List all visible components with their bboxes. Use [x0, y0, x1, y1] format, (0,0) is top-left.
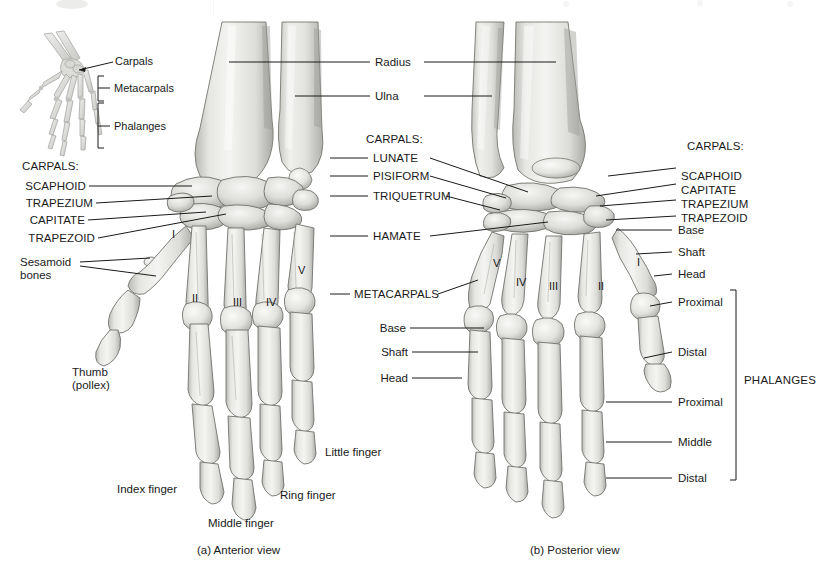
anterior-carpals-heading: CARPALS: [22, 160, 79, 173]
posterior-metacarpal-shaft-center: Shaft [330, 346, 408, 359]
center-carpal-triquetrum: TRIQUETRUM [373, 190, 451, 203]
label-thumb-line2: (pollex) [72, 379, 110, 392]
anterior-metacarpal-numeral-5: V [298, 264, 305, 277]
posterior-metacarpal-numeral-4: IV [516, 276, 526, 289]
label-little-finger: Little finger [325, 446, 381, 459]
figure-canvas: Carpals Metacarpals Phalanges Radius Uln… [0, 0, 825, 578]
posterior-hand-skeleton [464, 22, 671, 518]
inset-carpals-leader [79, 62, 113, 72]
label-ulna: Ulna [375, 90, 399, 103]
label-sesamoid-line2: bones [20, 269, 51, 282]
posterior-metacarpal-numeral-1: I [637, 256, 640, 269]
posterior-carpal-trapezoid: TRAPEZOID [681, 212, 748, 225]
posterior-metacarpal-numeral-3: III [549, 280, 558, 293]
anterior-metacarpal-numeral-3: III [233, 296, 242, 309]
label-radius: Radius [375, 56, 411, 69]
center-carpals-heading: CARPALS: [366, 133, 423, 146]
posterior-thumb-proximal: Proximal [678, 296, 723, 309]
inset-brackets [98, 76, 110, 148]
label-thumb-line1: Thumb [72, 366, 108, 379]
inset-label-carpals: Carpals [115, 55, 153, 68]
label-middle-finger: Middle finger [208, 517, 274, 530]
posterior-phalanx-distal: Distal [678, 472, 707, 485]
posterior-phalanx-proximal: Proximal [678, 396, 723, 409]
posterior-carpal-scaphoid: SCAPHOID [681, 170, 742, 183]
anterior-carpal-capitate: CAPITATE [0, 214, 85, 227]
posterior-carpal-capitate: CAPITATE [681, 184, 736, 197]
inset-hand-drawing [20, 31, 102, 156]
label-phalanges-bracket: PHALANGES [744, 374, 816, 387]
caption-anterior-view: (a) Anterior view [197, 544, 280, 557]
posterior-metacarpal-base: Base [678, 224, 704, 237]
center-carpal-hamate: HAMATE [373, 230, 421, 243]
label-index-finger: Index finger [117, 483, 177, 496]
posterior-metacarpal-head-center: Head [330, 372, 408, 385]
label-sesamoid-line1: Sesamoid [20, 256, 71, 269]
label-ring-finger: Ring finger [280, 489, 336, 502]
anterior-carpal-scaphoid: SCAPHOID [0, 180, 86, 193]
center-carpal-lunate: LUNATE [373, 152, 418, 165]
anterior-hand-skeleton [96, 22, 323, 520]
caption-posterior-view: (b) Posterior view [530, 544, 619, 557]
phalanges-bracket [730, 290, 736, 480]
anterior-carpal-trapezium: TRAPEZIUM [0, 197, 93, 210]
anterior-metacarpal-numeral-2: II [192, 292, 198, 305]
inset-label-phalanges: Phalanges [114, 120, 166, 133]
anterior-metacarpal-numeral-4: IV [266, 296, 276, 309]
posterior-metacarpal-base-center: Base [330, 322, 406, 335]
posterior-carpals-heading: CARPALS: [687, 140, 744, 153]
posterior-thumb-distal: Distal [678, 346, 707, 359]
posterior-phalanx-middle: Middle [678, 436, 712, 449]
anterior-metacarpal-numeral-1: I [172, 228, 175, 241]
inset-label-metacarpals: Metacarpals [114, 82, 174, 95]
posterior-metacarpal-shaft: Shaft [678, 246, 705, 259]
label-metacarpals-center: METACARPALS [354, 288, 439, 301]
cropped-top-remnant [56, 0, 793, 16]
center-carpal-pisiform: PISIFORM [373, 170, 429, 183]
posterior-metacarpal-numeral-2: II [598, 280, 604, 293]
posterior-carpal-trapezium: TRAPEZIUM [681, 198, 748, 211]
anterior-carpal-trapezoid: TRAPEZOID [0, 232, 95, 245]
posterior-metacarpal-numeral-5: V [493, 257, 500, 270]
posterior-metacarpal-head: Head [678, 268, 706, 281]
